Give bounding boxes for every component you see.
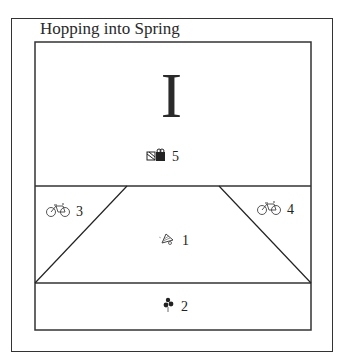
piece-3-number: 3 xyxy=(76,204,83,220)
piece-3-label: 3 xyxy=(46,203,83,221)
piece-1-number: 1 xyxy=(182,233,189,249)
bicycle-icon xyxy=(257,201,281,219)
piece-2-number: 2 xyxy=(181,299,188,315)
piece-4-number: 4 xyxy=(287,202,294,218)
piece-5-number: 5 xyxy=(172,149,179,165)
header-letter: I xyxy=(0,64,343,128)
bell-icon xyxy=(158,232,176,250)
trapezoid-left-edge xyxy=(35,186,127,283)
piece-1-label: 1 xyxy=(158,232,189,250)
bicycle-icon xyxy=(46,203,70,221)
piece-2-label: 2 xyxy=(163,297,188,317)
piece-5-label: 5 xyxy=(146,148,179,166)
piece-4-label: 4 xyxy=(257,201,294,219)
gift-icon xyxy=(146,148,166,166)
balloons-icon xyxy=(163,297,175,317)
